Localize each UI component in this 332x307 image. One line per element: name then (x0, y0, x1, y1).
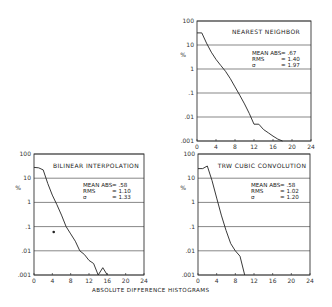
y-tick-label: 10 (23, 174, 31, 181)
x-tick-label: 20 (122, 277, 130, 284)
panel-title: TRW CUBIC CONVOLUTION (217, 162, 307, 169)
x-tick-label: 0 (32, 277, 36, 284)
plot-frame (34, 154, 144, 275)
x-tick-label: 20 (288, 143, 296, 150)
y-tick-label: 100 (183, 17, 195, 24)
x-tick-label: 12 (250, 277, 258, 284)
y-tick-label: 100 (20, 150, 32, 157)
y-axis-label: % (180, 184, 186, 191)
x-tick-label: 20 (288, 277, 296, 284)
x-tick-label: 0 (195, 143, 199, 150)
chart-panel-nearest: 100101.1.01.00104812162024%NEAREST NEIGH… (180, 17, 315, 150)
y-tick-label: 100 (184, 150, 196, 157)
stat-value: = 1.33 (112, 194, 131, 200)
x-tick-label: 24 (306, 277, 314, 284)
x-tick-label: 4 (50, 277, 54, 284)
plot-frame (197, 21, 311, 141)
y-tick-label: 10 (186, 41, 194, 48)
x-tick-label: 4 (214, 143, 218, 150)
stat-value: = 1.97 (281, 62, 300, 68)
y-axis-label: % (15, 184, 21, 191)
x-tick-label: 24 (307, 143, 315, 150)
y-tick-label: .01 (185, 247, 195, 254)
x-tick-label: 8 (233, 277, 237, 284)
x-tick-label: 8 (233, 143, 237, 150)
y-tick-label: 1 (191, 198, 195, 205)
y-tick-label: 1 (190, 65, 194, 72)
y-tick-label: 10 (187, 174, 195, 181)
y-tick-label: .1 (188, 89, 194, 96)
histogram-curve (198, 166, 245, 275)
panel-title: BILINEAR INTERPOLATION (53, 162, 139, 169)
stat-value: = 1.20 (280, 194, 299, 200)
x-tick-label: 16 (269, 143, 277, 150)
y-tick-label: 1 (27, 198, 31, 205)
data-dot (52, 231, 55, 234)
x-tick-label: 12 (250, 143, 258, 150)
y-tick-label: .001 (18, 271, 32, 278)
chart-panel-bilinear: 100101.1.01.00104812162024%BILINEAR INTE… (15, 150, 148, 284)
x-tick-label: 24 (140, 277, 148, 284)
y-tick-label: .001 (181, 137, 195, 144)
x-tick-label: 12 (85, 277, 93, 284)
figure-caption: ABSOLUTE DIFFERENCE HISTOGRAMS (92, 287, 209, 293)
x-tick-label: 16 (104, 277, 112, 284)
stat-label: σ (83, 194, 87, 200)
absolute-difference-histograms-figure: 100101.1.01.00104812162024%NEAREST NEIGH… (0, 0, 332, 307)
x-tick-label: 0 (196, 277, 200, 284)
plot-frame (198, 154, 310, 275)
y-tick-label: .1 (189, 223, 195, 230)
y-tick-label: .1 (25, 223, 31, 230)
x-tick-label: 16 (269, 277, 277, 284)
stat-label: σ (252, 62, 256, 68)
panel-title: NEAREST NEIGHBOR (232, 28, 300, 35)
y-tick-label: .01 (184, 113, 194, 120)
stat-label: σ (251, 194, 255, 200)
y-tick-label: .01 (21, 247, 31, 254)
x-tick-label: 4 (215, 277, 219, 284)
chart-panel-trw: 100101.1.01.00104812162024%TRW CUBIC CON… (180, 150, 314, 284)
y-tick-label: .001 (182, 271, 196, 278)
x-tick-label: 8 (69, 277, 73, 284)
y-axis-label: % (180, 51, 186, 58)
